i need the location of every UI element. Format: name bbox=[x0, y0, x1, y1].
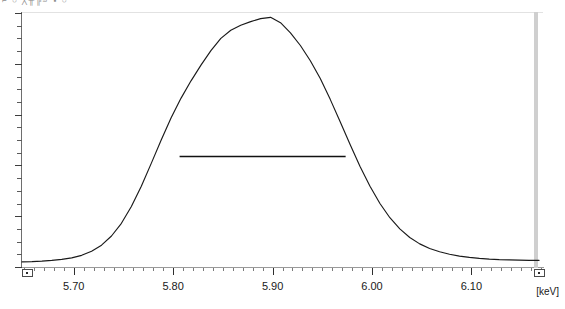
x-axis-tick bbox=[213, 268, 214, 271]
x-axis-tick-label: 5.70 bbox=[63, 280, 84, 292]
x-axis-tick bbox=[312, 268, 313, 271]
range-end-handle[interactable] bbox=[534, 269, 545, 277]
plot-frame-top bbox=[21, 12, 543, 13]
x-axis-tick bbox=[123, 268, 124, 271]
x-axis-tick bbox=[263, 268, 264, 271]
x-axis-tick bbox=[511, 268, 512, 271]
x-axis-tick bbox=[481, 268, 482, 271]
y-axis-tick bbox=[17, 89, 22, 90]
x-axis-tick bbox=[253, 268, 254, 271]
x-axis-tick bbox=[163, 268, 164, 271]
x-axis-tick bbox=[302, 268, 303, 271]
y-axis-tick bbox=[17, 77, 22, 78]
y-axis-tick bbox=[15, 165, 22, 166]
y-axis-tick bbox=[17, 127, 22, 128]
x-axis-tick bbox=[491, 268, 492, 271]
cursor-marker-line[interactable] bbox=[534, 12, 538, 268]
x-axis-tick bbox=[471, 268, 472, 275]
x-axis-tick bbox=[74, 268, 75, 275]
x-axis-tick bbox=[372, 268, 373, 275]
y-axis-tick bbox=[15, 64, 22, 65]
x-axis-tick bbox=[452, 268, 453, 271]
y-axis-tick bbox=[17, 191, 22, 192]
x-axis-tick bbox=[104, 268, 105, 271]
x-axis-tick bbox=[501, 268, 502, 271]
x-axis-tick bbox=[223, 268, 224, 271]
x-axis-tick bbox=[114, 268, 115, 271]
x-axis-tick bbox=[153, 268, 154, 271]
toolbar-fragment-text: ⌐ ○ ╳╫╠╝ ▪ ○ bbox=[2, 0, 68, 5]
x-axis-tick-label: 6.00 bbox=[361, 280, 382, 292]
y-axis-tick bbox=[15, 115, 22, 116]
y-axis-tick bbox=[17, 26, 22, 27]
x-axis-tick bbox=[412, 268, 413, 271]
x-axis-tick bbox=[382, 268, 383, 271]
x-axis-tick bbox=[292, 268, 293, 271]
x-axis-tick bbox=[531, 268, 532, 271]
plot-background bbox=[22, 13, 543, 267]
y-axis-tick bbox=[15, 267, 22, 268]
range-start-handle[interactable] bbox=[22, 269, 33, 277]
x-axis-tick bbox=[462, 268, 463, 271]
x-axis-tick bbox=[233, 268, 234, 271]
x-axis-tick bbox=[54, 268, 55, 271]
y-axis-tick bbox=[15, 216, 22, 217]
x-axis-tick bbox=[402, 268, 403, 271]
x-axis-tick bbox=[243, 268, 244, 271]
y-axis-tick bbox=[17, 242, 22, 243]
y-axis-tick bbox=[17, 51, 22, 52]
x-axis-tick bbox=[273, 268, 274, 275]
x-axis-tick bbox=[84, 268, 85, 271]
spectrum-plot-panel[interactable]: 5.705.805.906.006.10 bbox=[0, 8, 565, 309]
y-axis-tick bbox=[15, 13, 22, 14]
x-axis-tick-label: 5.80 bbox=[162, 280, 183, 292]
y-axis-tick bbox=[17, 178, 22, 179]
x-axis-tick bbox=[183, 268, 184, 271]
x-axis-tick bbox=[322, 268, 323, 271]
x-axis-tick bbox=[422, 268, 423, 271]
x-axis-unit-label: [keV] bbox=[536, 286, 559, 297]
y-axis-tick bbox=[17, 153, 22, 154]
x-axis-tick bbox=[432, 268, 433, 271]
x-axis-tick bbox=[362, 268, 363, 271]
x-axis-tick bbox=[173, 268, 174, 275]
x-axis-tick bbox=[203, 268, 204, 271]
toolbar-strip: ⌐ ○ ╳╫╠╝ ▪ ○ bbox=[0, 0, 565, 8]
x-axis-tick bbox=[133, 268, 134, 271]
y-axis-tick bbox=[17, 229, 22, 230]
y-axis-tick bbox=[17, 38, 22, 39]
x-axis-tick bbox=[392, 268, 393, 271]
x-axis-tick-label: 6.10 bbox=[461, 280, 482, 292]
x-axis-tick bbox=[521, 268, 522, 271]
y-axis-tick bbox=[17, 140, 22, 141]
y-axis-tick bbox=[17, 204, 22, 205]
x-axis-tick bbox=[143, 268, 144, 271]
x-axis-tick bbox=[332, 268, 333, 271]
y-axis-tick bbox=[17, 102, 22, 103]
x-axis-tick bbox=[283, 268, 284, 271]
x-axis-tick bbox=[44, 268, 45, 271]
x-axis-tick bbox=[352, 268, 353, 271]
x-axis-tick-label: 5.90 bbox=[262, 280, 283, 292]
x-axis-tick bbox=[193, 268, 194, 271]
x-axis-tick bbox=[34, 268, 35, 271]
x-axis-tick bbox=[442, 268, 443, 271]
x-axis-tick bbox=[94, 268, 95, 271]
x-axis-tick bbox=[342, 268, 343, 271]
x-axis-tick bbox=[64, 268, 65, 271]
y-axis-tick bbox=[17, 254, 22, 255]
